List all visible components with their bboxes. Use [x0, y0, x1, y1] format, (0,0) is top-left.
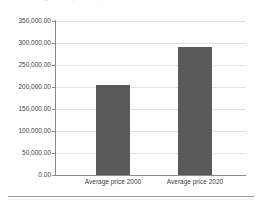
gridline	[56, 153, 246, 154]
y-axis-label: 300,000.00	[1, 39, 51, 46]
gridline	[56, 131, 246, 132]
bar-average-price-2020[interactable]	[178, 47, 212, 175]
x-axis-label-2020: Average price 2020	[140, 177, 250, 186]
y-axis-label: 0.00	[1, 171, 51, 178]
gridline	[56, 87, 246, 88]
y-axis-label: 250,000.00	[1, 61, 51, 68]
y-axis-label: 350,000.00	[1, 17, 51, 24]
y-axis-label: 100,000.00	[1, 127, 51, 134]
y-axis-label: 200,000.00	[1, 83, 51, 90]
y-axis-labels: 350,000.00 300,000.00 250,000.00 200,000…	[0, 7, 51, 187]
bar-chart: 350,000.00 300,000.00 250,000.00 200,000…	[0, 7, 261, 187]
gridline	[56, 109, 246, 110]
y-axis-label: 150,000.00	[1, 105, 51, 112]
bar-average-price-2000[interactable]	[96, 85, 130, 175]
page-divider	[8, 196, 254, 197]
page-divider-shadow	[8, 199, 254, 200]
x-axis-baseline	[56, 175, 246, 176]
cut-off-title-strip: Average house price comparison	[0, 0, 261, 7]
y-axis-label: 50,000.00	[1, 149, 51, 156]
gridline	[56, 43, 246, 44]
page-title: Average house price comparison	[28, 0, 238, 1]
plot-area	[56, 21, 246, 175]
gridline	[56, 65, 246, 66]
gridline	[56, 21, 246, 22]
x-axis-labels: Average price 2000 Average price 2020	[56, 177, 246, 189]
